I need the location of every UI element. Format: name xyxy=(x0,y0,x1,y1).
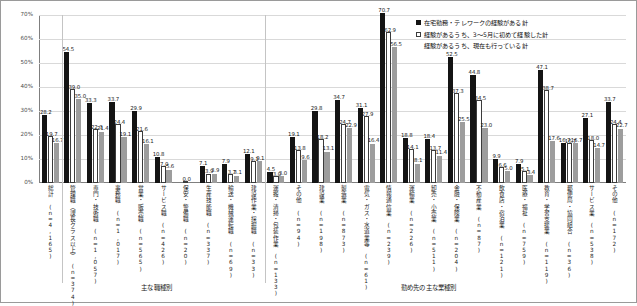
x-axis-category: 教育・学習支援業 (n=119) xyxy=(535,184,558,276)
bar-group: 54.539.035.0 xyxy=(62,15,85,183)
bar[interactable]: 3.1 xyxy=(234,176,239,183)
bar[interactable]: 5.1 xyxy=(522,171,527,183)
bar[interactable]: 21.4 xyxy=(99,132,104,183)
bar-slot: 17.6 xyxy=(550,15,555,183)
bar[interactable]: 25.5 xyxy=(460,122,465,183)
bar[interactable]: 22.3 xyxy=(93,129,98,183)
bar[interactable]: 9.1 xyxy=(257,161,262,183)
bar[interactable]: 33.3 xyxy=(87,103,92,183)
bar[interactable]: 3.0 xyxy=(273,176,278,183)
bar[interactable]: 9.9 xyxy=(493,159,498,183)
x-axis-category-label: 事務職 (n=1,017) xyxy=(115,184,121,266)
bar[interactable]: 22.9 xyxy=(347,128,352,183)
bar[interactable]: 3.0 xyxy=(279,176,284,183)
legend-item[interactable]: 経験があるうち、3～5月に初めて経験した計 xyxy=(416,30,548,39)
bar-group: 28.219.716.7 xyxy=(39,15,62,183)
x-axis-category: 医療・福祉 (n=759) xyxy=(513,184,536,276)
bar[interactable]: 17.6 xyxy=(550,141,555,183)
x-axis-category-label: サービス職 (n=426) xyxy=(160,184,166,266)
bar[interactable]: 14.7 xyxy=(595,148,600,183)
bar-slot: 35.0 xyxy=(76,15,81,183)
bar[interactable]: 37.3 xyxy=(454,93,459,183)
bar-slot: 12.1 xyxy=(245,15,250,183)
bar[interactable]: 28.2 xyxy=(42,115,47,183)
bar[interactable]: 5.6 xyxy=(166,170,171,183)
bar[interactable]: 16.4 xyxy=(370,144,375,183)
bar[interactable]: 29.8 xyxy=(312,111,317,183)
bar[interactable]: 22.7 xyxy=(618,129,623,183)
x-axis-category-label: 金融・保険業 (n=204) xyxy=(453,184,459,272)
bar[interactable]: 4.5 xyxy=(267,172,272,183)
bar[interactable]: 24.7 xyxy=(341,124,346,183)
bar[interactable]: 6.6 xyxy=(499,167,504,183)
bar[interactable]: 10.8 xyxy=(155,157,160,183)
legend-item[interactable]: 経験があるうち、現在も行っている計 xyxy=(416,41,548,50)
x-axis-category: 郵便局・協同組合 (n=36) xyxy=(558,184,581,276)
bar[interactable]: 5.0 xyxy=(505,171,510,183)
x-axis-category-label: 郵便局・協同組合 (n=36) xyxy=(566,184,572,278)
bar-slot: 54.5 xyxy=(64,15,69,183)
x-axis-category-label: 管理職（課長クラス以上） (n=374) xyxy=(70,184,76,306)
bar[interactable]: 12.1 xyxy=(245,154,250,183)
bar[interactable]: 16.1 xyxy=(144,144,149,183)
bar[interactable]: 33.7 xyxy=(606,102,611,183)
bar[interactable]: 3.7 xyxy=(228,174,233,183)
x-axis-category-label: 営業・販売職 (n=565) xyxy=(138,184,144,272)
bar[interactable]: 3.9 xyxy=(206,174,211,183)
bar[interactable]: 35.0 xyxy=(76,99,81,183)
bar[interactable]: 13.1 xyxy=(324,152,329,183)
bar[interactable]: 56.5 xyxy=(392,47,397,183)
bar[interactable]: 7.9 xyxy=(222,164,227,183)
bar-slot: 3.9 xyxy=(206,15,211,183)
bar-slot: 27.1 xyxy=(583,15,588,183)
bar[interactable]: 16.7 xyxy=(54,143,59,183)
bar[interactable]: 54.5 xyxy=(64,52,69,183)
bar[interactable]: 27.1 xyxy=(583,118,588,183)
bar[interactable]: 39.0 xyxy=(70,89,75,183)
bar-slot: 14.7 xyxy=(595,15,600,183)
bar-slot: 24.4 xyxy=(115,15,120,183)
bar-slot: 33.3 xyxy=(87,15,92,183)
bar[interactable]: 23.0 xyxy=(482,128,487,183)
x-axis-category-label: 建設作業・採掘職 (n=33) xyxy=(250,184,256,278)
bar-slot: 10.8 xyxy=(155,15,160,183)
bar[interactable]: 24.4 xyxy=(612,124,617,183)
x-axis-category-label: その他 (n=172) xyxy=(611,184,617,253)
bar[interactable]: 33.7 xyxy=(109,102,114,183)
bar[interactable]: 27.9 xyxy=(364,116,369,183)
bar[interactable]: 7.9 xyxy=(516,164,521,183)
bar-slot: 16.7 xyxy=(561,15,566,183)
bar[interactable]: 44.8 xyxy=(470,75,475,183)
bar[interactable]: 11.4 xyxy=(437,156,442,183)
bar[interactable]: 3.4 xyxy=(527,175,532,183)
bar[interactable]: 34.5 xyxy=(476,100,481,183)
x-axis-category: 飲食店・宿泊業 (n=121) xyxy=(490,184,513,276)
bar[interactable]: 31.1 xyxy=(358,108,363,183)
bar[interactable]: 3.9 xyxy=(212,174,217,183)
x-axis-category: その他 (n=172) xyxy=(603,184,626,276)
bar[interactable]: 7.0 xyxy=(161,166,166,183)
legend-swatch xyxy=(416,32,421,37)
bar-slot: 3.0 xyxy=(279,15,284,183)
bar-slot xyxy=(189,15,194,183)
bar[interactable]: 8.1 xyxy=(415,164,420,183)
bar[interactable]: 19.1 xyxy=(121,137,126,183)
bar[interactable]: 16.7 xyxy=(561,143,566,183)
bar[interactable]: 16.7 xyxy=(573,143,578,183)
bar[interactable]: 62.9 xyxy=(386,32,391,183)
legend-item[interactable]: 在宅勤務・テレワークの経験がある計 xyxy=(416,18,548,27)
x-axis-category-label: 不動産業 (n=87) xyxy=(476,184,482,253)
bar[interactable]: 13.8 xyxy=(296,150,301,183)
bar[interactable]: 70.7 xyxy=(380,13,385,183)
bar-slot: 4.5 xyxy=(267,15,272,183)
bar[interactable]: 9.1 xyxy=(251,161,256,183)
bar[interactable]: 52.5 xyxy=(448,57,453,183)
bar[interactable]: 34.7 xyxy=(335,100,340,183)
bar[interactable]: 29.9 xyxy=(132,111,137,183)
bar[interactable]: 14.1 xyxy=(409,149,414,183)
bar-group: 4.53.03.0 xyxy=(265,15,288,183)
bar[interactable]: 9.6 xyxy=(302,160,307,183)
bar-slot: 62.9 xyxy=(386,15,391,183)
bar[interactable]: 7.1 xyxy=(200,166,205,183)
bar[interactable]: 16.7 xyxy=(567,143,572,183)
